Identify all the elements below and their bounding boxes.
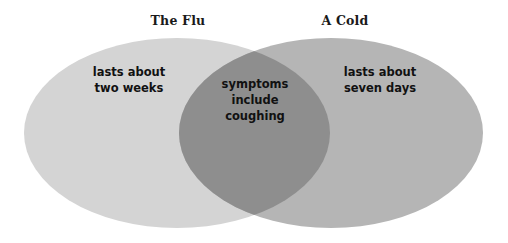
left-set-text: lasts about two weeks (93, 64, 165, 96)
left-set-text-line-1: lasts about (93, 64, 165, 80)
right-set-text: lasts about seven days (344, 64, 416, 96)
intersection-text-line-3: coughing (222, 108, 289, 124)
intersection-text-line-2: include (222, 92, 289, 108)
right-set-title: A Cold (321, 13, 368, 28)
left-set-title: The Flu (151, 13, 206, 28)
right-set-text-line-2: seven days (344, 80, 416, 96)
venn-diagram: The Flu A Cold lasts about two weeks sym… (0, 0, 508, 243)
left-set-text-line-2: two weeks (93, 80, 165, 96)
right-set-text-line-1: lasts about (344, 64, 416, 80)
intersection-text-line-1: symptoms (222, 76, 289, 92)
intersection-text: symptoms include coughing (222, 76, 289, 124)
